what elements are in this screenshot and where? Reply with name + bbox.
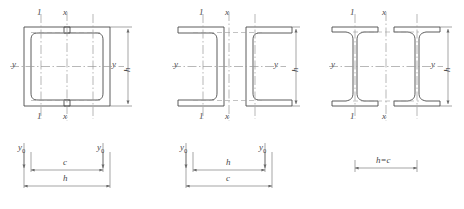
group-2-axis-label-top-center: x (225, 8, 229, 17)
group-3-axis-label-bottom-left: 1 (350, 112, 355, 121)
group-2-vertical-dimension-label: h (291, 68, 300, 73)
group-1-axis-label-top-left: 1 (37, 8, 42, 17)
group-1-axis-label-bottom-center: x (63, 112, 67, 121)
group-3-dimension-h-equals-c: h=c (376, 156, 391, 165)
group-3-axis-label-left: y (331, 60, 335, 69)
group-1-vertical-dimension-label: h (123, 68, 132, 73)
group-1-dimension-h: h (63, 174, 68, 183)
group-1-axis-label-bottom-left: 1 (37, 112, 42, 121)
group-1-axis-label-right: y (112, 60, 116, 69)
section-geometry (0, 0, 464, 209)
group-2-dimension-c: c (226, 174, 230, 183)
group-1-axis-label-top-center: x (63, 8, 67, 17)
engineering-drawing-canvas: 1 x 1 x y y h y0 c y0 h 1 x 1 x y y h y0… (0, 0, 464, 209)
group-1-dimension-y0-left: y0 (18, 143, 25, 155)
group-1-dimension-y0-right: y0 (97, 143, 104, 155)
group-2-axis-label-bottom-center: x (225, 112, 229, 121)
group-2-dimension-y0-right: y0 (259, 143, 266, 155)
group-2-axis-label-top-left: 1 (199, 8, 204, 17)
group-2-axis-label-left: y (174, 60, 178, 69)
group-3-axis-label-top-center: x (382, 8, 386, 17)
group-1-dimension-c: c (63, 158, 67, 167)
group-3-axis-label-right: y (431, 60, 435, 69)
group-3-axis-label-bottom-center: x (382, 112, 386, 121)
group-2-dimension-h: h (226, 158, 231, 167)
group-1-axis-label-left: y (12, 60, 16, 69)
group-2-dimension-y0-left: y0 (180, 143, 187, 155)
group-3-axis-label-top-left: 1 (350, 8, 355, 17)
group-3-vertical-dimension-label: h (443, 68, 452, 73)
group-2-axis-label-bottom-left: 1 (199, 112, 204, 121)
group-2-axis-label-right: y (274, 60, 278, 69)
